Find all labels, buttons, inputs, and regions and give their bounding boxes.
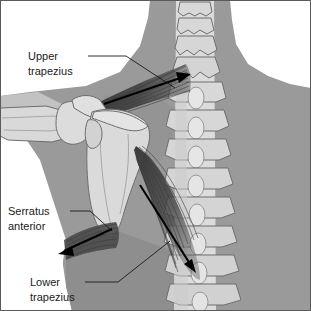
spinous-process-t2 — [188, 117, 204, 139]
spinous-process-t8 — [192, 292, 208, 311]
label-lower-trapezius-line1: Lower — [30, 276, 60, 288]
vertebra-c3 — [175, 36, 217, 55]
anatomy-figure: Upper trapezius Serratus anterior Lower … — [0, 0, 311, 311]
torso-silhouette — [0, 0, 311, 311]
label-upper-trapezius-line2: trapezius — [28, 65, 73, 77]
spinous-process-t5 — [189, 204, 205, 226]
label-upper-trapezius-line1: Upper — [28, 50, 58, 62]
anatomy-illustration: Upper trapezius Serratus anterior Lower … — [0, 0, 311, 311]
vertebra-c1 — [178, 2, 212, 16]
spine-left-shadow — [174, 80, 188, 311]
vertebra-c2 — [177, 18, 214, 34]
label-serratus-anterior-line2: anterior — [8, 220, 46, 232]
spinous-process-t3 — [188, 146, 204, 168]
spinous-process-t1 — [188, 87, 204, 109]
label-serratus-anterior-line1: Serratus — [8, 205, 50, 217]
label-lower-trapezius-line2: trapezius — [30, 291, 75, 303]
spinous-process-t4 — [188, 175, 204, 197]
glenoid-region — [85, 120, 102, 149]
